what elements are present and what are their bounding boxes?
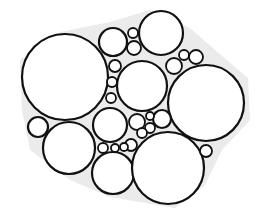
circle-tiny-18 (120, 143, 128, 151)
circle-bottom-middle (92, 152, 134, 194)
circle-top-right-medium (139, 11, 183, 55)
circle-tiny-3 (109, 60, 121, 72)
circle-tiny-13 (137, 128, 147, 138)
diagram-svg (0, 0, 259, 224)
circle-right-large (168, 65, 244, 141)
circle-packing-diagram (0, 0, 259, 224)
circle-tiny-11 (146, 112, 154, 120)
circle-tiny-4 (107, 77, 117, 87)
circle-center-small (93, 108, 127, 142)
circle-tiny-7 (179, 50, 189, 60)
circle-tiny-2 (127, 41, 141, 55)
circle-left-small (28, 117, 48, 137)
circle-tiny-16 (111, 144, 119, 152)
circle-center (117, 61, 167, 111)
circle-tiny-6 (166, 58, 182, 74)
circle-top-small-medium (99, 28, 127, 56)
circle-tiny-10 (153, 110, 171, 128)
circle-tiny-8 (189, 50, 203, 64)
circle-large-left (22, 34, 108, 120)
circle-tiny-17 (200, 145, 212, 157)
circle-bottom-right-large (132, 132, 204, 204)
circle-tiny-1 (128, 28, 138, 38)
circle-left-bottom-medium (43, 122, 95, 174)
circle-tiny-15 (98, 143, 108, 153)
circle-tiny-5 (106, 93, 116, 103)
